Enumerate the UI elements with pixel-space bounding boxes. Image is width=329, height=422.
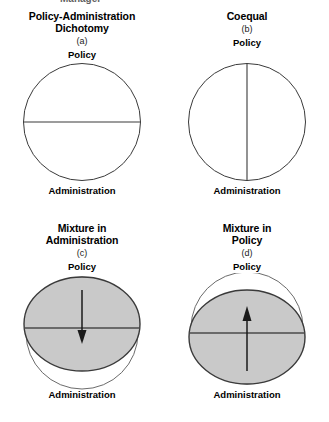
panel-b-diagram xyxy=(165,61,329,183)
panel-a-bottom-label: Administration xyxy=(0,185,164,197)
panel-a-top-label: Policy xyxy=(0,49,164,61)
panel-d-svg xyxy=(165,273,329,391)
panel-c-svg xyxy=(0,273,164,391)
panel-d-title: Mixture in Policy xyxy=(165,222,329,246)
panel-d-top-label: Policy xyxy=(165,261,329,273)
panel-c-diagram xyxy=(0,273,164,391)
panel-d: Mixture in Policy (d) Policy Administrat… xyxy=(165,222,329,401)
panel-b-top-label: Policy xyxy=(165,37,329,49)
panel-a-letter: (a) xyxy=(0,35,164,47)
panel-c-top-label: Policy xyxy=(0,261,164,273)
panel-c: Mixture in Administration (c) Policy Adm… xyxy=(0,222,164,401)
panel-b-bottom-label: Administration xyxy=(165,185,329,197)
panel-a: Policy-Administration Dichotomy (a) Poli… xyxy=(0,10,164,197)
panel-a-svg xyxy=(0,61,164,183)
top-cutoff-text: Management xyxy=(60,0,100,4)
panel-b-svg xyxy=(165,61,329,183)
top-cutoff-artifact: Management xyxy=(60,0,100,5)
panel-b-title: Coequal xyxy=(165,10,329,22)
panel-c-letter: (c) xyxy=(0,247,164,259)
figure-root: Management Policy-Administration Dichoto… xyxy=(0,0,329,422)
panel-b-letter: (b) xyxy=(165,23,329,35)
panel-c-title: Mixture in Administration xyxy=(0,222,164,246)
panel-a-title: Policy-Administration Dichotomy xyxy=(0,10,164,34)
panel-d-diagram xyxy=(165,273,329,391)
panel-b: Coequal (b) Policy Administration xyxy=(165,10,329,197)
panel-d-letter: (d) xyxy=(165,247,329,259)
panel-a-diagram xyxy=(0,61,164,183)
